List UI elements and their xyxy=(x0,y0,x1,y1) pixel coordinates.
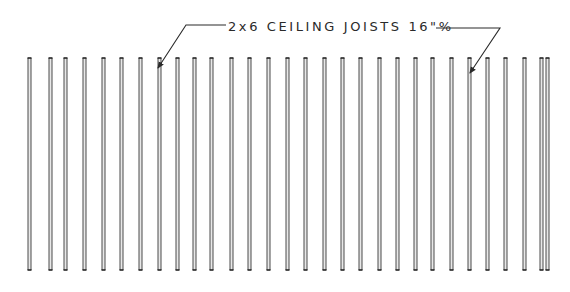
joist xyxy=(286,58,290,270)
joist xyxy=(267,58,271,270)
joist xyxy=(102,58,106,270)
joist xyxy=(486,58,490,270)
joist xyxy=(158,58,162,270)
joist xyxy=(28,58,32,270)
joist xyxy=(304,58,308,270)
joist xyxy=(176,58,180,270)
joist xyxy=(341,58,345,270)
joist xyxy=(120,58,124,270)
joist xyxy=(396,58,400,270)
joist xyxy=(450,58,454,270)
ceiling-joist-diagram: 2x6 CEILING JOISTS 16"% xyxy=(0,0,570,292)
joist xyxy=(248,58,252,270)
joist xyxy=(230,58,234,270)
joist xyxy=(49,58,53,270)
joist xyxy=(468,58,472,270)
joist xyxy=(210,58,214,270)
joist xyxy=(64,58,68,270)
joist xyxy=(378,58,382,270)
joist xyxy=(546,58,550,270)
joist xyxy=(83,58,87,270)
joists-group xyxy=(28,58,550,270)
joist xyxy=(359,58,363,270)
joist xyxy=(431,58,435,270)
joist xyxy=(504,58,508,270)
joist xyxy=(523,58,527,270)
left-leader xyxy=(158,25,226,68)
joist xyxy=(139,58,143,270)
joist xyxy=(193,58,197,270)
joist xyxy=(414,58,418,270)
joist-callout-label: 2x6 CEILING JOISTS 16"% xyxy=(228,19,454,34)
joist xyxy=(323,58,327,270)
joist xyxy=(540,58,544,270)
